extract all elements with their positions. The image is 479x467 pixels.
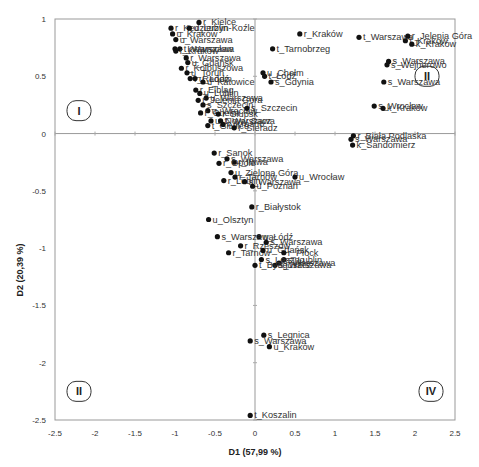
data-point xyxy=(268,79,273,84)
x-axis-title: D1 (57,99 %) xyxy=(228,447,281,457)
data-point xyxy=(381,79,386,84)
data-point xyxy=(232,125,237,130)
data-point xyxy=(215,234,220,239)
y-tick-label: -1.5 xyxy=(32,301,46,310)
point-label: u_Kraków xyxy=(273,342,314,352)
data-point xyxy=(350,142,355,147)
data-point xyxy=(205,123,210,128)
data-point xyxy=(173,48,178,53)
y-tick-label: -1 xyxy=(39,244,47,253)
x-tick-label: 1.5 xyxy=(369,429,381,438)
data-point xyxy=(221,178,226,183)
x-tick-label: 0.5 xyxy=(289,429,301,438)
x-tick-label: 1 xyxy=(333,429,338,438)
data-point xyxy=(200,79,205,84)
data-point xyxy=(206,217,211,222)
data-point xyxy=(232,175,237,180)
data-point xyxy=(356,35,361,40)
data-point xyxy=(249,204,254,209)
data-point xyxy=(348,137,353,142)
data-point xyxy=(403,38,408,43)
point-label: k_Kraków xyxy=(387,103,428,113)
x-tick-label: -2.5 xyxy=(48,429,62,438)
data-point xyxy=(192,76,197,81)
x-tick-label: -2 xyxy=(91,429,99,438)
data-point xyxy=(179,66,184,71)
point-label: s_Szczecin xyxy=(251,103,297,113)
point-label: t_Tarnobrzeg xyxy=(277,44,331,54)
point-label: t_Bydgoszcz xyxy=(259,260,311,270)
data-point xyxy=(184,55,189,60)
point-label: u_Olsztyn xyxy=(213,215,254,225)
point-label: s_Gdynia xyxy=(275,77,315,87)
data-point xyxy=(409,42,414,47)
x-tick-label: 2 xyxy=(413,429,418,438)
y-tick-label: -2 xyxy=(39,359,47,368)
x-tick-label: 2.5 xyxy=(449,429,461,438)
x-tick-label: -0.5 xyxy=(208,429,222,438)
point-label: k_Sandomierz xyxy=(357,140,416,150)
data-point xyxy=(173,37,178,42)
quadrant-label: I xyxy=(77,105,80,117)
point-label: r_Sieradz xyxy=(238,123,278,133)
scatter-chart: -2.5-2-1.5-1-0.500.511.522.510.50-0.5-1-… xyxy=(0,0,479,467)
quadrant-label: IV xyxy=(426,385,437,397)
x-tick-label: -1 xyxy=(171,429,179,438)
x-tick-label: 0 xyxy=(253,429,258,438)
data-point xyxy=(212,150,217,155)
data-point xyxy=(384,62,389,67)
data-point xyxy=(228,170,233,175)
point-label: u_Poznań xyxy=(257,181,298,191)
data-point xyxy=(380,106,385,111)
data-point xyxy=(250,184,255,189)
data-point xyxy=(184,70,189,75)
data-point xyxy=(226,250,231,255)
y-tick-label: -2.5 xyxy=(32,416,46,425)
y-tick-label: -0.5 xyxy=(32,187,46,196)
point-label: s_Wejherowo xyxy=(391,60,447,70)
data-points: r_Kędzierzyn-Koźler_Kielceu_Lublinu_Krak… xyxy=(168,17,473,420)
data-point xyxy=(242,179,247,184)
y-tick-label: 1 xyxy=(42,15,47,24)
data-point xyxy=(244,106,249,111)
data-point xyxy=(216,161,221,166)
data-point xyxy=(262,74,267,79)
y-tick-label: 0 xyxy=(42,130,47,139)
data-point xyxy=(193,87,198,92)
data-point xyxy=(248,413,253,418)
point-label: r_Kraków xyxy=(304,29,343,39)
y-tick-label: 0.5 xyxy=(35,72,47,81)
data-point xyxy=(196,98,201,103)
data-point xyxy=(267,344,272,349)
point-label: r_Białystok xyxy=(256,202,301,212)
data-point xyxy=(198,110,203,115)
point-label: s_Warszawa xyxy=(388,77,441,87)
data-point xyxy=(260,248,265,253)
point-label: u_Wrocław xyxy=(299,172,345,182)
data-point xyxy=(188,76,193,81)
data-point xyxy=(297,31,302,36)
data-point xyxy=(372,103,377,108)
point-label: t_Koszalin xyxy=(254,410,296,420)
quadrant-label: II xyxy=(76,385,82,397)
data-point xyxy=(270,46,275,51)
data-point xyxy=(220,122,225,127)
data-point xyxy=(252,263,257,268)
x-tick-label: -1.5 xyxy=(128,429,142,438)
point-label: k_Kraków xyxy=(416,39,457,49)
data-point xyxy=(248,338,253,343)
data-point xyxy=(170,31,175,36)
y-axis-title: D2 (20,39 %) xyxy=(15,243,25,296)
data-point xyxy=(168,26,173,31)
data-point xyxy=(200,102,205,107)
